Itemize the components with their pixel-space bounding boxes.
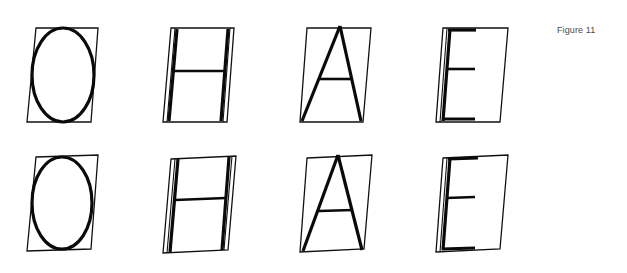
letter-a-top [300, 26, 371, 122]
frame-a-top [300, 28, 371, 122]
glyph-a-bottom-crossbar [319, 210, 353, 211]
letter-h-bottom [163, 156, 236, 253]
glyph-a-bottom-right-leg [338, 155, 362, 250]
letter-h-top [163, 28, 234, 122]
frame-a-bottom [300, 155, 372, 252]
glyph-h-bottom-crossbar [175, 198, 226, 200]
letter-a-bottom [300, 155, 372, 252]
glyph-o-top [32, 28, 94, 122]
glyph-e-bottom-top-arm [448, 158, 478, 159]
letter-o-top [27, 28, 98, 122]
glyph-a-top-left-leg [302, 26, 340, 121]
glyph-a-top-right-leg [340, 26, 361, 121]
letterform-figure [0, 0, 627, 273]
frame-o-bottom [27, 155, 98, 251]
letter-o-bottom [27, 155, 98, 251]
glyph-a-bottom-left-leg [303, 155, 338, 251]
glyph-e-bottom-middle-arm [446, 197, 475, 198]
letter-e-top [436, 28, 508, 122]
glyph-e-bottom-bottom-arm [442, 248, 475, 249]
glyph-o-bottom [32, 157, 92, 249]
frame-o-top [27, 28, 98, 122]
figure-caption: Figure 11 [557, 25, 595, 35]
letter-e-bottom [436, 155, 508, 252]
